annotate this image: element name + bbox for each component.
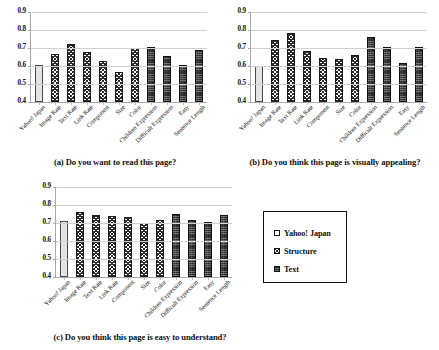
y-tick-label: 0.5 bbox=[43, 255, 51, 262]
bar bbox=[147, 47, 156, 102]
y-tick-mark bbox=[28, 30, 31, 31]
legend-swatch-icon-structure bbox=[274, 248, 280, 254]
bar bbox=[415, 47, 424, 102]
legend-label-yahoo-japan: Yahoo! Japan bbox=[284, 229, 331, 238]
y-tick-mark bbox=[28, 48, 31, 49]
y-tick-mark bbox=[28, 12, 31, 13]
gridline bbox=[251, 48, 427, 49]
gridline bbox=[56, 187, 232, 188]
y-tick-label: 0.7 bbox=[43, 219, 51, 226]
y-tick-label: 0.9 bbox=[43, 183, 51, 190]
bar bbox=[220, 215, 229, 277]
bar bbox=[399, 63, 408, 102]
x-axis-labels-b: Yahoo! JapanImage RateText RateLink Rate… bbox=[250, 104, 426, 162]
gridline bbox=[56, 241, 232, 242]
legend-label-text: Text bbox=[284, 265, 299, 274]
y-tick-label: 0.4 bbox=[43, 273, 51, 280]
bar bbox=[131, 48, 140, 102]
y-axis-labels-c: 0.90.80.70.60.50.4 bbox=[33, 183, 53, 281]
y-tick-label: 0.5 bbox=[18, 80, 26, 87]
bar bbox=[303, 51, 312, 102]
y-tick-mark bbox=[53, 205, 56, 206]
x-axis-labels-a: Yahoo! JapanImage RateText RateLink Rate… bbox=[30, 104, 206, 162]
chart-legend: Yahoo! Japan Structure Text bbox=[263, 211, 347, 283]
bar-group-c bbox=[56, 187, 232, 277]
y-tick-label: 0.5 bbox=[238, 80, 246, 87]
bar bbox=[51, 54, 60, 102]
y-tick-label: 0.8 bbox=[238, 26, 246, 33]
legend-label-structure: Structure bbox=[284, 247, 317, 256]
bar bbox=[383, 47, 392, 102]
x-axis-category-label: Size bbox=[335, 104, 347, 116]
gridline bbox=[56, 223, 232, 224]
figure-root: 0.90.80.70.60.50.4 Yahoo! JapanImage Rat… bbox=[0, 0, 439, 350]
gridline bbox=[251, 12, 427, 13]
y-axis-labels-b: 0.90.80.70.60.50.4 bbox=[228, 8, 248, 106]
y-tick-label: 0.4 bbox=[18, 98, 26, 105]
legend-item-text: Text bbox=[274, 260, 331, 278]
y-tick-mark bbox=[248, 30, 251, 31]
bar bbox=[115, 72, 124, 102]
plot-wrapper-a: 0.90.80.70.60.50.4 Yahoo! JapanImage Rat… bbox=[8, 8, 208, 106]
plot-area-c bbox=[55, 187, 232, 278]
bar bbox=[188, 220, 197, 277]
y-tick-mark bbox=[53, 259, 56, 260]
chart-panel-a: 0.90.80.70.60.50.4 Yahoo! JapanImage Rat… bbox=[8, 8, 208, 106]
bar bbox=[319, 58, 328, 102]
bar bbox=[124, 217, 133, 277]
y-tick-label: 0.9 bbox=[238, 8, 246, 15]
bar bbox=[271, 40, 280, 102]
gridline bbox=[31, 48, 207, 49]
bar bbox=[156, 220, 165, 277]
y-tick-mark bbox=[28, 102, 31, 103]
y-tick-mark bbox=[28, 84, 31, 85]
y-tick-mark bbox=[53, 241, 56, 242]
bar bbox=[287, 33, 296, 102]
bar bbox=[204, 222, 213, 277]
y-tick-mark bbox=[248, 84, 251, 85]
gridline bbox=[31, 66, 207, 67]
legend-swatch-icon-yahoo-japan bbox=[274, 230, 280, 236]
bar bbox=[60, 221, 69, 277]
legend-item-structure: Structure bbox=[274, 242, 331, 260]
bar bbox=[140, 223, 149, 277]
y-tick-mark bbox=[248, 12, 251, 13]
bar bbox=[163, 56, 172, 102]
y-tick-mark bbox=[248, 48, 251, 49]
legend-swatch-icon-text bbox=[274, 266, 280, 272]
y-tick-label: 0.9 bbox=[18, 8, 26, 15]
y-tick-label: 0.7 bbox=[18, 44, 26, 51]
gridline bbox=[31, 30, 207, 31]
y-tick-label: 0.8 bbox=[43, 201, 51, 208]
y-tick-mark bbox=[53, 223, 56, 224]
chart-panel-b: 0.90.80.70.60.50.4 Yahoo! JapanImage Rat… bbox=[228, 8, 428, 106]
bar bbox=[92, 215, 101, 277]
x-axis-category-label: Size bbox=[140, 279, 152, 291]
gridline bbox=[56, 205, 232, 206]
bar bbox=[195, 50, 204, 102]
caption-b: (b) Do you think this page is visually a… bbox=[226, 157, 439, 167]
y-tick-label: 0.6 bbox=[238, 62, 246, 69]
gridline bbox=[31, 84, 207, 85]
y-tick-mark bbox=[28, 66, 31, 67]
plot-wrapper-b: 0.90.80.70.60.50.4 Yahoo! JapanImage Rat… bbox=[228, 8, 428, 106]
bar bbox=[67, 44, 76, 102]
legend-item-yahoo-japan: Yahoo! Japan bbox=[274, 224, 331, 242]
bar bbox=[108, 216, 117, 277]
y-tick-label: 0.7 bbox=[238, 44, 246, 51]
chart-panel-c: 0.90.80.70.60.50.4 Yahoo! JapanImage Rat… bbox=[33, 183, 233, 281]
gridline bbox=[251, 84, 427, 85]
bar bbox=[76, 212, 85, 277]
bar-group-b bbox=[251, 12, 427, 102]
plot-wrapper-c: 0.90.80.70.60.50.4 Yahoo! JapanImage Rat… bbox=[33, 183, 233, 281]
x-axis-labels-c: Yahoo! JapanImage RateText RateLink Rate… bbox=[55, 279, 231, 337]
y-tick-mark bbox=[248, 66, 251, 67]
bar-group-a bbox=[31, 12, 207, 102]
y-tick-mark bbox=[53, 277, 56, 278]
y-tick-label: 0.6 bbox=[43, 237, 51, 244]
caption-c: (c) Do you think this page is easy to un… bbox=[33, 332, 247, 342]
legend-items: Yahoo! Japan Structure Text bbox=[274, 224, 331, 278]
y-tick-label: 0.6 bbox=[18, 62, 26, 69]
x-axis-category-label: Size bbox=[115, 104, 127, 116]
gridline bbox=[56, 259, 232, 260]
